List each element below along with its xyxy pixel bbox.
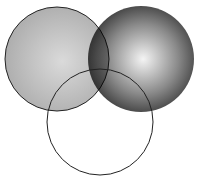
venn-diagram [0,0,202,183]
venn-circle-left [5,7,109,111]
